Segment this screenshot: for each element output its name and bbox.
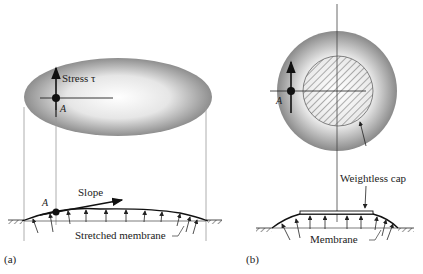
ground-support-right: [208, 220, 222, 224]
ground-support-left-b: [256, 228, 272, 232]
cap-label-arrow: [365, 186, 366, 208]
ground-support-left: [8, 220, 22, 224]
membrane-analogy-diagram: Stress τ A A: [0, 0, 423, 274]
point-a-label: A: [59, 103, 67, 114]
stretched-membrane-label: Stretched membrane: [75, 229, 166, 241]
panel-b-label: (b): [246, 253, 259, 266]
membrane-label-b: Membrane: [310, 233, 358, 245]
membrane-leader-line: [172, 226, 184, 236]
panel-b: A Weightless cap Membrane: [246, 4, 414, 266]
stress-label: Stress τ: [62, 72, 96, 84]
membrane-curve-b: [272, 214, 398, 228]
point-a-membrane-marker: [53, 209, 60, 216]
weightless-cap-label: Weightless cap: [340, 172, 407, 184]
weightless-cap-plate: [300, 211, 373, 214]
panel-a-label: (a): [4, 253, 17, 266]
ground-support-right-b: [398, 228, 414, 232]
point-a-label-b: A: [275, 95, 283, 106]
point-a-marker: [52, 94, 60, 102]
slope-label: Slope: [78, 186, 103, 198]
point-a-marker-b: [287, 87, 295, 95]
point-a-membrane-label: A: [41, 197, 49, 208]
membrane-leader-line-b: [369, 230, 381, 240]
panel-a: Stress τ A A: [4, 58, 222, 266]
slope-arrow: [40, 200, 122, 215]
